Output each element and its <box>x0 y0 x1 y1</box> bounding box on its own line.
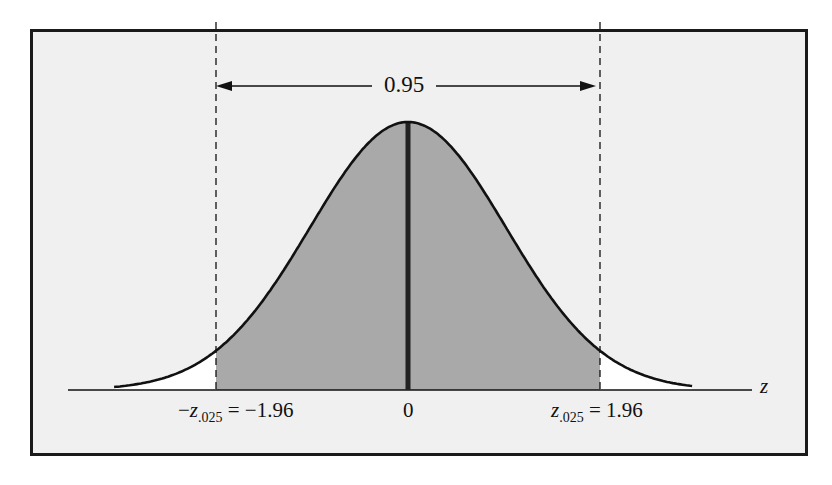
left-minus: − <box>178 398 190 422</box>
arrow-right-icon <box>580 81 596 91</box>
left-critical-label: −z.025 = −1.96 <box>178 398 293 426</box>
left-z: z <box>190 398 198 422</box>
right-z: z <box>551 398 559 422</box>
left-subscript: .025 <box>198 410 223 425</box>
right-subscript: .025 <box>559 410 584 425</box>
axis-variable: z <box>760 374 768 398</box>
right-value: = 1.96 <box>584 398 643 422</box>
center-label: 0 <box>403 398 414 423</box>
left-value: = −1.96 <box>223 398 294 422</box>
axis-variable-label: z <box>760 374 768 399</box>
arrow-left-icon <box>216 81 232 91</box>
right-critical-label: z.025 = 1.96 <box>551 398 643 426</box>
area-label: 0.95 <box>384 72 424 98</box>
